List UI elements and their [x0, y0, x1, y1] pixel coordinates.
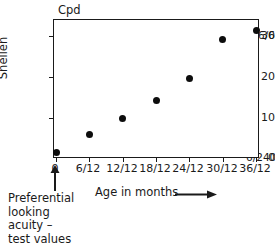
data-point [119, 115, 126, 122]
data-point [53, 149, 60, 156]
x-tick-label-30-12: 30/12 [206, 163, 238, 175]
x-tick-label-24-12: 24/12 [172, 163, 204, 175]
y-tick-20 [49, 77, 54, 78]
y-tick-30 [49, 36, 54, 37]
preferential-looking-caption: Preferential looking acuity – test value… [8, 192, 74, 246]
data-point [153, 97, 160, 104]
caption-line-4: test values [8, 233, 74, 247]
data-point [86, 131, 93, 138]
data-point [219, 36, 226, 43]
acuity-development-chart: Cpd Snellen 30 20 10 0 6/6 6/240 0 6/12 … [0, 0, 275, 247]
x-axis-title: Age in months [95, 186, 178, 199]
x-tick-label-6-12: 6/12 [76, 163, 101, 175]
y-axis-title: Snellen [0, 37, 9, 79]
plot-area [53, 19, 259, 158]
data-point [253, 27, 260, 34]
y-axis-unit-label: Cpd [58, 4, 81, 16]
caption-line-1: Preferential [8, 192, 74, 206]
x-tick-label-18-12: 18/12 [139, 163, 171, 175]
x-tick-label-36-12: 36/12 [239, 163, 271, 175]
data-point [186, 75, 193, 82]
right-arrow-icon [175, 190, 217, 199]
x-tick-label-12-12: 12/12 [106, 163, 138, 175]
y-tick-10 [49, 118, 54, 119]
caption-line-2: looking [8, 206, 74, 220]
up-arrow-icon [49, 165, 61, 191]
caption-line-3: acuity – [8, 219, 74, 233]
